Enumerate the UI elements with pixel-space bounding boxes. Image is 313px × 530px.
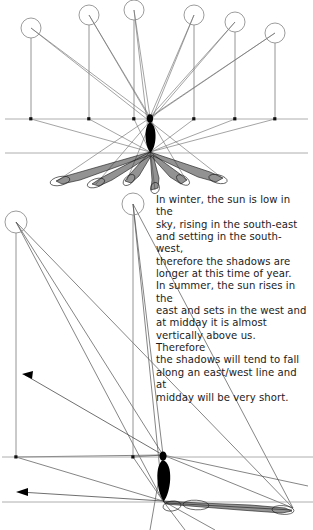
diagram-top-group — [5, 0, 308, 194]
top-radial-shadows — [49, 152, 228, 194]
shadow-arrow-upper-head — [22, 371, 33, 379]
shadow-arrow-upper-shaft — [25, 375, 163, 455]
bottom-sun-poles — [16, 215, 133, 457]
shadow-arrow-lower-shaft — [20, 492, 163, 501]
bottom-sun-circles — [5, 193, 144, 233]
top-sun-poles — [31, 20, 275, 119]
top-sun-circles — [21, 0, 285, 43]
bottom-shadow-arrows — [16, 371, 163, 501]
illustration-page: In winter, the sun is low in the sky, ri… — [0, 0, 313, 530]
seasonal-shadow-explanation-text: In winter, the sun is low in the sky, ri… — [156, 194, 308, 404]
shadow-arrow-lower-head — [16, 488, 28, 496]
